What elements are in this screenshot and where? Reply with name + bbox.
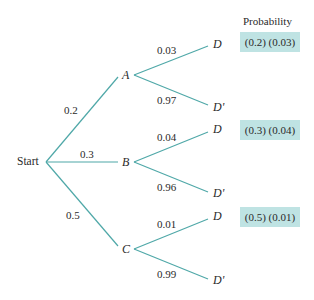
probability-header: Probability (243, 15, 292, 27)
edge-label-b-d: 0.04 (157, 131, 176, 143)
node-c-dprime: D' (213, 274, 224, 287)
node-c-d: D (213, 210, 222, 223)
edge-label-a-dprime: 0.97 (157, 94, 176, 106)
node-b: B (122, 156, 129, 169)
edge-label-start-c: 0.5 (66, 209, 80, 221)
node-a-dprime: D' (213, 101, 224, 114)
node-b-d: D (213, 123, 222, 136)
edge-label-a-d: 0.03 (157, 44, 176, 56)
node-c: C (122, 243, 130, 256)
edge-label-c-dprime: 0.99 (157, 268, 176, 280)
node-a-d: D (213, 38, 222, 51)
joint-probability-c-d: (0.5) (0.01) (240, 207, 300, 227)
node-a: A (122, 69, 129, 82)
root-node-start: Start (17, 155, 39, 168)
edge-start-c (46, 162, 118, 246)
edge-label-c-d: 0.01 (157, 218, 176, 230)
edge-label-start-a: 0.2 (64, 104, 78, 116)
edge-label-start-b: 0.3 (80, 148, 94, 160)
joint-probability-b-d: (0.3) (0.04) (240, 120, 300, 140)
edge-label-b-dprime: 0.96 (157, 181, 176, 193)
joint-probability-a-d: (0.2) (0.03) (240, 32, 300, 52)
node-b-dprime: D' (213, 187, 224, 200)
